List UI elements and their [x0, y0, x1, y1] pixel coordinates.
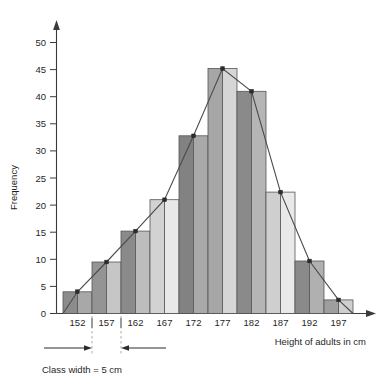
bar-167 [150, 200, 179, 314]
x-tick-label-172: 172 [186, 317, 202, 328]
y-tick-label-10: 10 [35, 254, 46, 265]
class-width-label: Class width = 5 cm [42, 364, 122, 375]
x-tick-label-162: 162 [128, 317, 144, 328]
y-axis-ticks: 0 5 10 15 20 25 30 35 40 45 50 [35, 37, 56, 319]
x-tick-label-182: 182 [244, 317, 260, 328]
bar-162-right [136, 231, 151, 313]
y-tick-label-30: 30 [35, 145, 46, 156]
y-tick-label-35: 35 [35, 118, 46, 129]
bar-192 [295, 261, 324, 314]
y-tick-label-15: 15 [35, 227, 46, 238]
bar-157-right [107, 262, 122, 314]
x-tick-label-157: 157 [99, 317, 115, 328]
y-tick-label-0: 0 [41, 308, 46, 319]
y-tick-label-5: 5 [41, 281, 46, 292]
bar-152-right [78, 292, 93, 314]
bar-182-right [252, 91, 267, 313]
y-axis [53, 20, 60, 314]
polygon-point-177 [221, 67, 225, 71]
x-axis-title: Height of adults in cm [275, 336, 366, 347]
bar-172 [179, 136, 208, 314]
class-width-arrow-right-head [121, 345, 129, 351]
bar-162 [121, 231, 150, 313]
bar-157 [92, 262, 121, 314]
x-axis-arrowhead [366, 310, 376, 317]
polygon-point-152 [76, 290, 80, 294]
bar-152 [63, 292, 92, 314]
histogram-canvas: 0 5 10 15 20 25 30 35 40 45 50 Frequency [0, 0, 384, 389]
x-tick-label-167: 167 [157, 317, 173, 328]
polygon-point-182 [250, 90, 254, 94]
polygon-point-172 [192, 134, 196, 138]
x-tick-label-197: 197 [331, 317, 347, 328]
histogram-chart: 0 5 10 15 20 25 30 35 40 45 50 Frequency [0, 0, 384, 389]
y-tick-label-20: 20 [35, 200, 46, 211]
bar-187 [266, 192, 295, 313]
x-axis-ticks: 152 157 162 167 172 177 182 187 192 197 [70, 317, 347, 328]
x-tick-label-177: 177 [215, 317, 231, 328]
bar-177-right [223, 69, 238, 314]
y-tick-label-45: 45 [35, 64, 46, 75]
polygon-point-167 [163, 198, 167, 202]
y-tick-label-40: 40 [35, 91, 46, 102]
x-tick-label-187: 187 [273, 317, 289, 328]
y-axis-arrowhead [53, 20, 60, 30]
polygon-point-187 [279, 190, 283, 194]
bar-172-right [194, 136, 209, 314]
bar-187-left [266, 192, 281, 313]
polygon-point-197 [337, 298, 341, 302]
bar-192-left [295, 261, 310, 314]
bar-167-left [150, 200, 165, 314]
y-axis-title: Frequency [8, 165, 19, 210]
polygon-point-192 [308, 259, 312, 263]
polygon-point-157 [105, 260, 109, 264]
bars-group [63, 69, 353, 314]
bar-167-right [165, 200, 180, 314]
class-width-arrow-left-head [84, 345, 92, 351]
bar-192-right [310, 261, 325, 314]
y-tick-label-50: 50 [35, 37, 46, 48]
polygon-point-162 [134, 229, 138, 233]
bar-182-left [237, 91, 252, 313]
bar-177-left [208, 69, 223, 314]
x-tick-label-192: 192 [302, 317, 318, 328]
y-tick-label-25: 25 [35, 173, 46, 184]
bar-177 [208, 69, 237, 314]
bar-197-left [324, 300, 339, 314]
x-tick-label-152: 152 [70, 317, 86, 328]
